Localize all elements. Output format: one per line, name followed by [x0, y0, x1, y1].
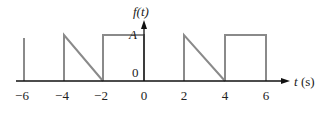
y-axis-arrow-icon [141, 20, 147, 29]
sawtooth-2-to-4 [184, 35, 225, 81]
tick-0: 0 [141, 88, 148, 103]
x-axis-arrow-icon [281, 78, 290, 84]
tick-minus-6: −6 [15, 88, 29, 103]
amplitude-label: A [128, 27, 137, 42]
waveform [24, 35, 266, 81]
tick-4: 4 [222, 88, 229, 103]
origin-label: 0 [132, 65, 139, 80]
tick-2: 2 [181, 88, 188, 103]
pulse-4-to-6 [225, 35, 266, 81]
tick-minus-2: −2 [94, 88, 108, 103]
x-axis-label: t (s) [294, 74, 315, 89]
tick-minus-4: −4 [55, 88, 69, 103]
sawtooth-minus-4-to-minus-2 [64, 35, 103, 81]
tick-6: 6 [263, 88, 270, 103]
x-tick-labels: −6 −4 −2 0 2 4 6 [15, 88, 270, 103]
signal-diagram: f(t) A 0 t (s) −6 −4 −2 0 2 4 6 [0, 0, 332, 113]
y-axis-label: f(t) [133, 4, 149, 19]
